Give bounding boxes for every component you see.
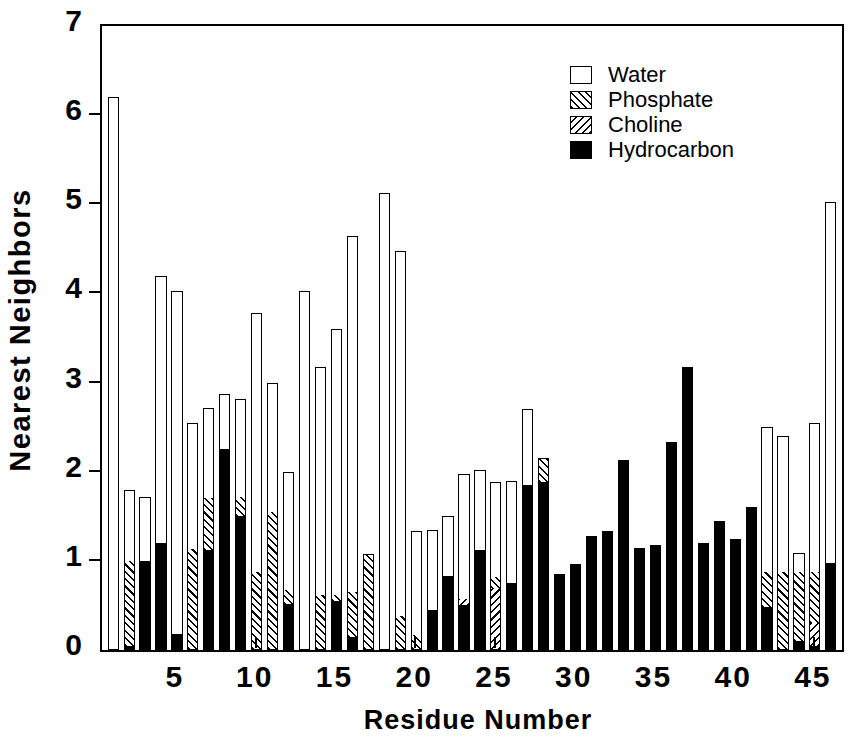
legend-swatch-phosphate-icon — [570, 91, 592, 109]
bar-segment-hydrocarbon — [171, 634, 182, 650]
bar-segment-water — [267, 383, 278, 512]
bar-segment-hydrocarbon — [124, 646, 135, 650]
bar-residue-11 — [267, 383, 278, 650]
chart-legend: Water Phosphate Choline Hydrocarbon — [570, 62, 770, 162]
bar-segment-hydrocarbon — [746, 507, 757, 650]
bar-residue-41 — [746, 507, 757, 650]
bar-segment-hydrocarbon — [235, 516, 246, 650]
bar-segment-hydrocarbon — [586, 536, 597, 650]
legend-label-water: Water — [608, 62, 666, 88]
bar-segment-hydrocarbon — [666, 442, 677, 650]
bar-segment-hydrocarbon — [442, 576, 453, 650]
bar-residue-34 — [634, 548, 645, 651]
bar-residue-36 — [666, 442, 677, 650]
bar-segment-hydrocarbon — [283, 604, 294, 650]
bar-segment-hydrocarbon — [554, 574, 565, 650]
bar-segment-water — [219, 394, 230, 449]
bar-segment-hydrocarbon — [522, 485, 533, 650]
bar-segment-hydrocarbon — [650, 545, 661, 650]
x-tick-30 — [574, 637, 576, 648]
x-tick-label-10: 10 — [215, 660, 295, 694]
legend-swatch-choline-icon — [570, 116, 592, 134]
bar-residue-16 — [347, 236, 358, 651]
bar-segment-phosphate — [761, 572, 772, 608]
bar-segment-water — [155, 276, 166, 543]
bar-residue-21 — [427, 530, 438, 650]
legend-label-choline: Choline — [608, 112, 683, 138]
bar-segment-water — [442, 516, 453, 576]
bar-segment-water — [427, 530, 438, 610]
bar-residue-8 — [219, 394, 230, 650]
bar-residue-4 — [155, 276, 166, 650]
x-tick-45 — [813, 637, 815, 648]
x-tick-25 — [494, 637, 496, 648]
legend-swatch-hydrocarbon-icon — [570, 141, 592, 159]
bar-segment-water — [139, 497, 150, 561]
bar-segment-hydrocarbon — [427, 610, 438, 650]
y-tick-label-0: 0 — [20, 630, 82, 660]
legend-item-choline: Choline — [570, 112, 770, 137]
bar-segment-hydrocarbon — [761, 607, 772, 650]
bar-residue-42 — [761, 427, 772, 650]
x-tick-20 — [414, 637, 416, 648]
bar-segment-phosphate — [363, 554, 374, 650]
bar-segment-choline — [458, 599, 469, 605]
bar-segment-hydrocarbon — [793, 641, 804, 650]
bar-residue-26 — [506, 481, 517, 650]
bar-segment-phosphate — [235, 497, 246, 517]
bar-segment-water — [793, 553, 804, 573]
bar-residue-24 — [474, 470, 485, 650]
bar-residue-28 — [538, 458, 549, 650]
bar-residue-18 — [379, 193, 390, 650]
bar-segment-phosphate — [347, 592, 358, 637]
bar-residue-2 — [124, 490, 135, 650]
bar-segment-water — [777, 436, 788, 571]
bar-residue-6 — [187, 423, 198, 650]
bar-segment-phosphate — [395, 616, 406, 650]
bar-segment-water — [124, 490, 135, 561]
bar-segment-phosphate — [793, 572, 804, 641]
legend-item-water: Water — [570, 62, 770, 87]
y-tick-label-4: 4 — [20, 273, 82, 303]
legend-item-phosphate: Phosphate — [570, 87, 770, 112]
bar-segment-water — [331, 329, 342, 595]
bar-residue-35 — [650, 545, 661, 650]
x-axis-title: Residue Number — [100, 700, 856, 740]
x-tick-label-45: 45 — [773, 660, 853, 694]
y-tick-label-2: 2 — [20, 452, 82, 482]
bar-segment-water — [761, 427, 772, 571]
bar-segment-hydrocarbon — [347, 637, 358, 650]
y-tick-label-7: 7 — [20, 6, 82, 36]
bar-residue-5 — [171, 291, 182, 650]
bar-segment-water — [171, 291, 182, 634]
bar-residue-32 — [602, 531, 613, 650]
bar-residue-1 — [108, 97, 119, 650]
bar-residue-20 — [411, 531, 422, 650]
legend-label-phosphate: Phosphate — [608, 87, 713, 113]
bar-segment-hydrocarbon — [618, 460, 629, 650]
bar-segment-phosphate — [809, 572, 820, 624]
bar-segment-water — [506, 481, 517, 584]
bar-segment-hydrocarbon — [506, 583, 517, 650]
bar-residue-19 — [395, 251, 406, 650]
bar-segment-phosphate — [187, 549, 198, 650]
bar-segment-hydrocarbon — [714, 521, 725, 650]
bar-segment-phosphate — [267, 512, 278, 650]
bar-residue-40 — [730, 539, 741, 650]
bar-segment-phosphate — [777, 572, 788, 650]
bar-segment-hydrocarbon — [698, 543, 709, 650]
bar-residue-43 — [777, 436, 788, 650]
y-tick-3 — [89, 381, 100, 383]
bar-residue-17 — [363, 554, 374, 650]
bar-segment-water — [187, 423, 198, 550]
bar-residue-45 — [809, 423, 820, 650]
bar-segment-phosphate — [124, 561, 135, 646]
x-tick-label-25: 25 — [454, 660, 534, 694]
bar-segment-phosphate — [283, 590, 294, 603]
x-tick-label-5: 5 — [135, 660, 215, 694]
bar-residue-10 — [251, 313, 262, 650]
bar-segment-hydrocarbon — [155, 543, 166, 650]
bar-residue-31 — [586, 536, 597, 650]
y-tick-6 — [89, 113, 100, 115]
y-tick-label-6: 6 — [20, 95, 82, 125]
